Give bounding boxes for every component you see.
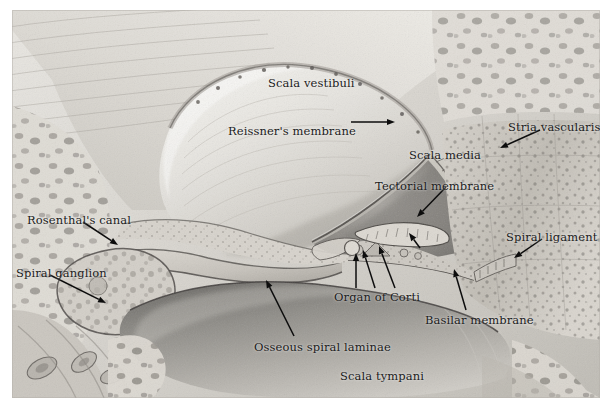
cochlea-figure: Scala vestibuliReissner's membraneStria …: [0, 0, 600, 411]
label-tectorial-membrane: Tectorial membrane: [375, 181, 494, 193]
label-organ-of-corti: Organ of Corti: [334, 292, 420, 304]
label-basilar-membrane: Basilar membrane: [425, 315, 534, 327]
label-spiral-ligament: Spiral ligament: [506, 232, 597, 244]
label-scala-tympani: Scala tympani: [340, 371, 424, 383]
label-spiral-ganglion: Spiral ganglion: [16, 268, 107, 280]
label-scala-vestibuli: Scala vestibuli: [268, 78, 355, 90]
label-reissners-membrane: Reissner's membrane: [228, 126, 356, 138]
label-scala-media: Scala media: [409, 150, 481, 162]
histology-plate-image: Scala vestibuliReissner's membraneStria …: [12, 10, 600, 398]
label-rosenthals-canal: Rosenthal's canal: [27, 215, 131, 227]
label-osseous-spiral-laminae: Osseous spiral laminae: [254, 342, 391, 354]
label-stria-vascularis: Stria vascularis: [508, 122, 600, 134]
